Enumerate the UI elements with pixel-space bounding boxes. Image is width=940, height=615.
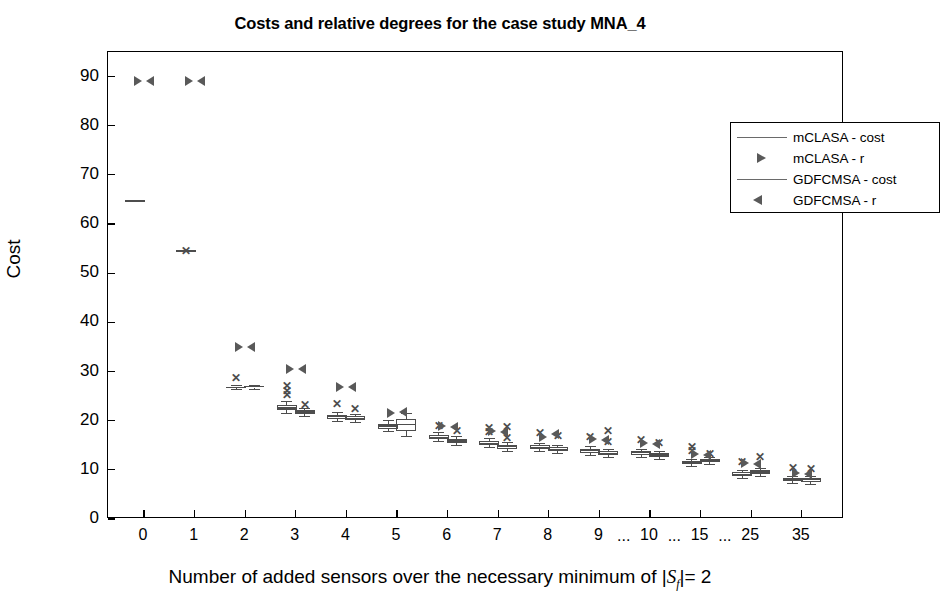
box-median	[345, 418, 365, 419]
box-whisker-cap	[686, 466, 697, 467]
marker-triangle-left	[298, 364, 306, 374]
y-axis-title: Cost	[3, 239, 25, 278]
chart-legend[interactable]: mCLASA - costmCLASA - rGDFCMSA - costGDF…	[730, 122, 940, 213]
box-whisker-cap	[249, 385, 260, 386]
outlier-marker: ✕	[282, 382, 292, 391]
box-whisker-cap	[704, 464, 715, 465]
outlier-marker: ✕	[300, 400, 310, 409]
box-whisker-cap	[552, 445, 563, 446]
legend-item[interactable]: mCLASA - r	[731, 148, 939, 169]
marker-triangle-left	[753, 459, 761, 469]
outlier-marker: ✕	[332, 399, 342, 408]
x-tick-mark	[649, 510, 650, 517]
chart-title: Costs and relative degrees for the case …	[0, 14, 880, 33]
marker-triangle-right	[792, 468, 800, 478]
box-whisker-cap	[654, 459, 665, 460]
marker-triangle-right	[387, 408, 395, 418]
y-tick-label: 60	[55, 213, 99, 233]
box-whisker-cap	[585, 446, 596, 447]
x-tick-separator: ...	[668, 527, 681, 545]
x-tick-label: 25	[741, 526, 759, 544]
box-whisker-cap	[636, 449, 647, 450]
x-tick-separator: ...	[617, 527, 630, 545]
marker-triangle-right	[286, 364, 294, 374]
y-tick-mark	[108, 518, 115, 519]
x-tick-label: 9	[594, 526, 603, 544]
box-median	[801, 479, 821, 480]
x-tick-mark	[194, 510, 195, 517]
box-median	[429, 437, 449, 438]
y-tick-label: 50	[55, 262, 99, 282]
marker-triangle-left	[348, 382, 356, 392]
x-tick-mark	[447, 510, 448, 517]
x-tick-label: 10	[640, 526, 658, 544]
x-tick-label: 0	[139, 526, 148, 544]
x-tick-label: 7	[493, 526, 502, 544]
marker-triangle-left	[652, 439, 660, 449]
box-whisker-cap	[281, 413, 292, 414]
box-whisker-cap	[603, 449, 614, 450]
legend-symbol	[731, 190, 793, 211]
marker-triangle-right	[134, 76, 142, 86]
box-median	[396, 424, 416, 425]
x-tick-mark	[548, 510, 549, 517]
outlier-marker: ✕	[181, 247, 191, 256]
x-tick-label: 3	[290, 526, 299, 544]
box-whisker-cap	[737, 478, 748, 479]
x-tick-label: 35	[792, 526, 810, 544]
marker-triangle-right	[741, 458, 749, 468]
line-icon	[737, 137, 787, 138]
triangle-left-icon	[753, 195, 762, 205]
box-median	[378, 425, 398, 426]
y-tick-label: 30	[55, 361, 99, 381]
legend-item[interactable]: GDFCMSA - r	[731, 190, 939, 211]
marker-triangle-left	[804, 469, 812, 479]
legend-symbol	[731, 148, 793, 169]
x-tick-mark	[245, 510, 246, 517]
x-tick-label: 8	[543, 526, 552, 544]
x-tick-mark	[143, 510, 144, 517]
box-median	[598, 453, 618, 454]
x-tick-label: 4	[341, 526, 350, 544]
box-whisker-cap	[585, 455, 596, 456]
box-median	[447, 440, 467, 441]
y-tick-label: 0	[55, 508, 99, 528]
box-whisker-cap	[332, 412, 343, 413]
box-whisker-cap	[130, 201, 141, 202]
y-tick-mark	[108, 322, 115, 323]
box-median	[631, 452, 651, 453]
x-tick-label: 15	[691, 526, 709, 544]
y-tick-mark	[108, 223, 115, 224]
box-whisker-cap	[636, 457, 647, 458]
legend-item[interactable]: GDFCMSA - cost	[731, 169, 939, 190]
marker-triangle-left	[247, 342, 255, 352]
box-whisker-cap	[401, 436, 412, 437]
box-whisker-cap	[654, 451, 665, 452]
y-tick-mark	[108, 469, 115, 470]
box-median	[580, 450, 600, 451]
box-whisker-cap	[433, 432, 444, 433]
x-axis-title: Number of added sensors over the necessa…	[0, 566, 880, 592]
box-whisker-cap	[231, 385, 242, 386]
y-tick-label: 80	[55, 115, 99, 135]
marker-triangle-left	[146, 76, 154, 86]
x-tick-label: 1	[189, 526, 198, 544]
marker-triangle-right	[539, 432, 547, 442]
x-tick-mark	[396, 510, 397, 517]
marker-triangle-right	[235, 342, 243, 352]
marker-triangle-left	[601, 435, 609, 445]
outlier-marker: ✕	[231, 374, 241, 383]
box-median	[497, 446, 517, 447]
legend-symbol	[731, 127, 793, 148]
x-tick-label: 2	[240, 526, 249, 544]
legend-item[interactable]: mCLASA - cost	[731, 127, 939, 148]
box-whisker-cap	[383, 420, 394, 421]
y-tick-label: 10	[55, 459, 99, 479]
x-tick-mark	[801, 510, 802, 517]
box-whisker-cap	[603, 457, 614, 458]
x-tick-mark	[599, 510, 600, 517]
box-whisker-cap	[350, 422, 361, 423]
box-whisker-cap	[755, 476, 766, 477]
x-tick-mark	[751, 510, 752, 517]
box-median	[649, 454, 669, 455]
